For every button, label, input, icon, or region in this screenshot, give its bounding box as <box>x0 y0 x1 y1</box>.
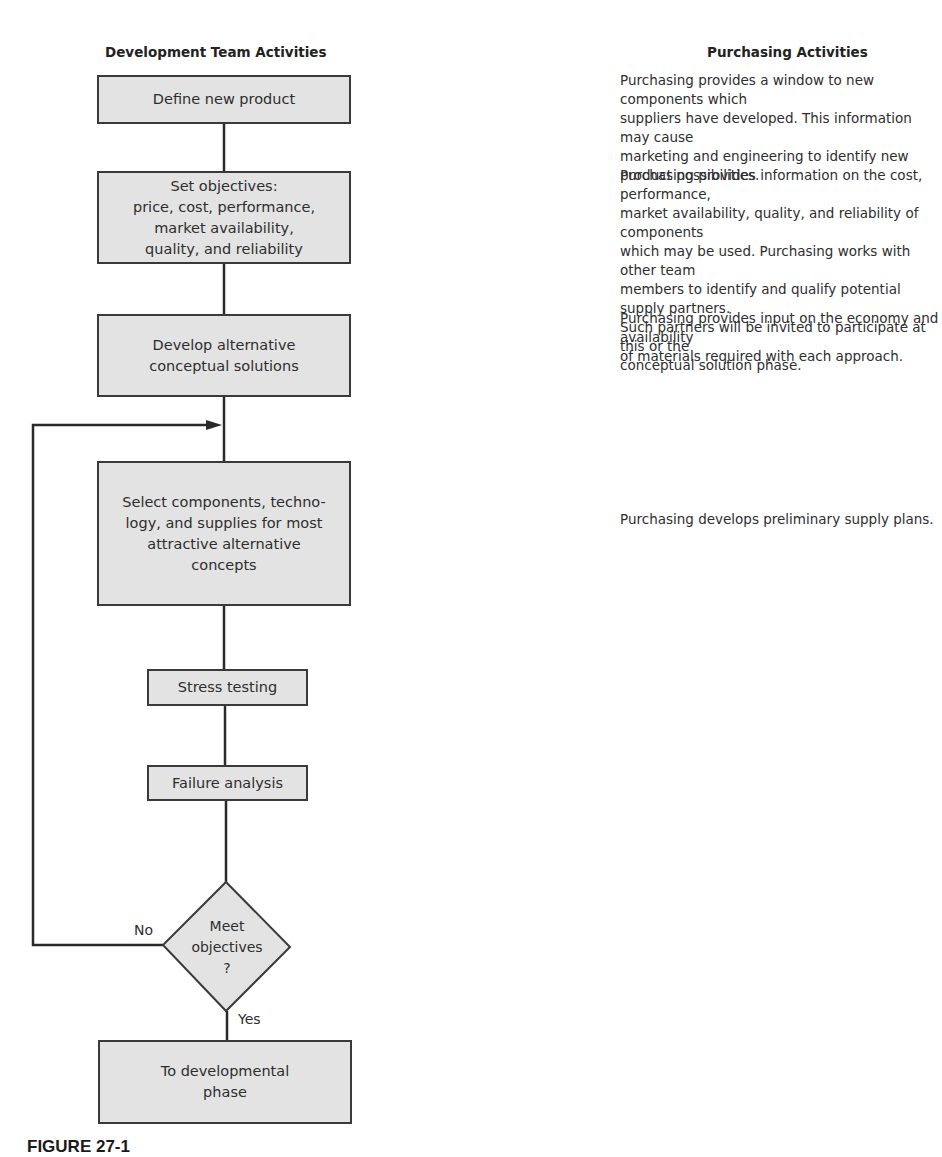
box-developmental-phase: To developmental phase <box>98 1040 352 1124</box>
figure-caption: FIGURE 27-1 <box>27 1137 130 1157</box>
box-label: Failure analysis <box>172 773 283 794</box>
purchasing-note-4: Purchasing develops preliminary supply p… <box>620 510 942 529</box>
yes-label: Yes <box>238 1011 261 1027</box>
box-label: Develop alternative conceptual solutions <box>149 335 299 377</box>
box-select-components: Select components, techno- logy, and sup… <box>97 461 351 606</box>
box-set-objectives: Set objectives: price, cost, performance… <box>97 171 351 264</box>
box-failure-analysis: Failure analysis <box>147 765 308 801</box>
box-label: Stress testing <box>178 677 277 698</box>
box-develop-alternatives: Develop alternative conceptual solutions <box>97 314 351 397</box>
box-define-new-product: Define new product <box>97 75 351 124</box>
no-label: No <box>134 922 153 938</box>
box-stress-testing: Stress testing <box>147 669 308 706</box>
box-label: Select components, techno- logy, and sup… <box>122 492 325 576</box>
purchasing-note-3: Purchasing provides input on the economy… <box>620 309 942 366</box>
decision-label: Meet objectives ? <box>166 916 288 979</box>
box-label: Set objectives: price, cost, performance… <box>133 176 315 260</box>
header-development-team: Development Team Activities <box>105 44 327 60</box>
box-label: To developmental phase <box>161 1061 289 1103</box>
header-purchasing: Purchasing Activities <box>707 44 868 60</box>
box-label: Define new product <box>153 89 295 110</box>
